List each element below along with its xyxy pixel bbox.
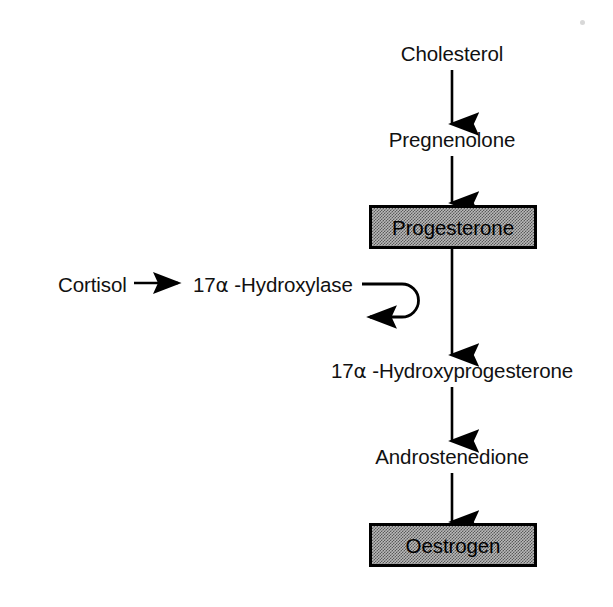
hydroxylase-prefix: 17 — [193, 273, 216, 296]
node-oestrogen-label: Oestrogen — [406, 536, 501, 557]
hydroxyprogesterone-suffix: -Hydroxyprogesterone — [367, 359, 573, 382]
node-hydroxyprogesterone: 17α -Hydroxyprogesterone — [331, 361, 573, 382]
scan-artifact-speck — [580, 20, 585, 25]
pathway-diagram: Cholesterol Pregnenolone Progesterone 17… — [0, 0, 613, 607]
node-progesterone-label: Progesterone — [392, 218, 514, 239]
node-androstenedione: Androstenedione — [375, 447, 529, 468]
alpha-symbol-icon: α — [354, 359, 367, 383]
node-cholesterol: Cholesterol — [401, 44, 504, 65]
hydroxylase-suffix: -Hydroxylase — [229, 273, 353, 296]
node-cortisol: Cortisol — [58, 275, 127, 296]
node-pregnenolone: Pregnenolone — [389, 130, 515, 151]
node-hydroxylase: 17α -Hydroxylase — [193, 275, 353, 296]
alpha-symbol-icon: α — [216, 273, 229, 297]
hydroxyprogesterone-prefix: 17 — [331, 359, 354, 382]
diagram-canvas — [0, 0, 613, 607]
edge-hydroxylase-hook — [362, 284, 419, 317]
